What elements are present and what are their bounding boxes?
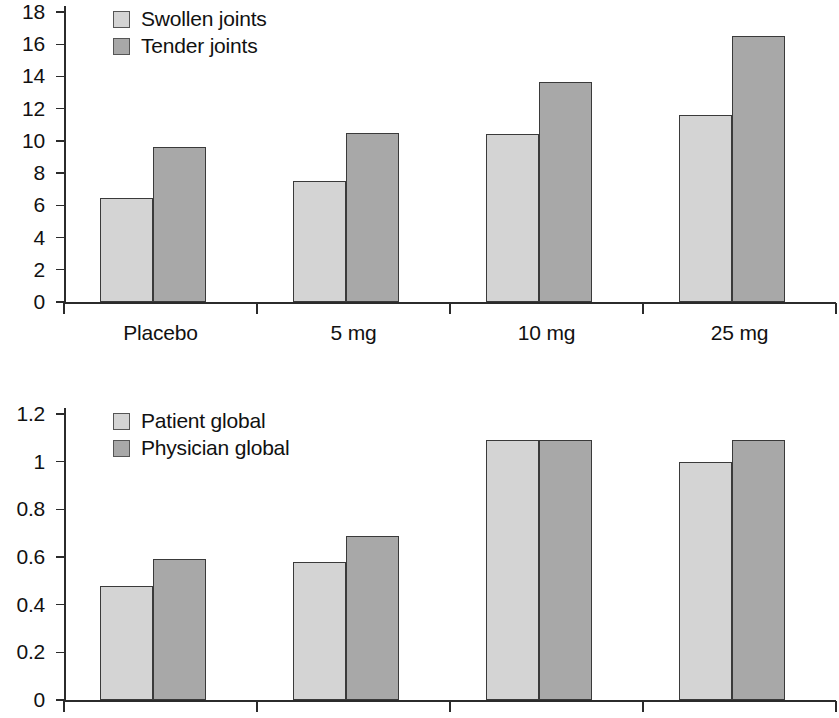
legend-item: Patient global xyxy=(113,408,290,434)
x-axis-tick xyxy=(256,303,257,314)
x-axis-tick xyxy=(63,701,64,712)
x-axis-tick xyxy=(835,701,836,712)
y-axis-tick xyxy=(56,237,65,238)
x-axis-tick xyxy=(835,303,836,314)
x-axis-tick xyxy=(449,303,450,314)
bar xyxy=(732,36,785,302)
y-axis-tick-label: 8 xyxy=(0,162,45,183)
y-axis-tick-label: 0.8 xyxy=(0,498,45,519)
y-axis-tick xyxy=(56,140,65,141)
y-axis-tick-label: 10 xyxy=(0,130,45,151)
bar xyxy=(153,147,206,302)
y-axis-tick xyxy=(56,604,65,605)
x-axis-tick-label: 25 mg xyxy=(643,322,836,343)
y-axis-tick xyxy=(56,205,65,206)
bar xyxy=(100,198,153,302)
y-axis-tick xyxy=(56,461,65,462)
y-axis-line xyxy=(64,6,66,302)
y-axis-tick xyxy=(56,509,65,510)
bar xyxy=(732,440,785,700)
y-axis-tick-label: 6 xyxy=(0,194,45,215)
x-axis-tick-label: 10 mg xyxy=(450,322,643,343)
y-axis-tick-label: 4 xyxy=(0,227,45,248)
y-axis-tick-label: 0 xyxy=(0,689,45,710)
legend-label: Tender joints xyxy=(141,35,257,57)
x-axis-tick xyxy=(256,701,257,712)
x-axis-tick-label: Placebo xyxy=(64,322,257,343)
y-axis-tick-label: 0.6 xyxy=(0,546,45,567)
y-axis-tick-label: 0.2 xyxy=(0,641,45,662)
y-axis-tick-label: 16 xyxy=(0,33,45,54)
y-axis-tick-label: 0.4 xyxy=(0,594,45,615)
y-axis-tick xyxy=(56,652,65,653)
y-axis-tick-label: 0 xyxy=(0,291,45,312)
y-axis-tick xyxy=(56,44,65,45)
x-axis-tick xyxy=(642,303,643,314)
y-axis-tick xyxy=(56,76,65,77)
legend-swatch-icon xyxy=(113,413,130,430)
legend-swatch-icon xyxy=(113,11,130,28)
y-axis-tick-label: 1.2 xyxy=(0,403,45,424)
bar xyxy=(153,559,206,700)
legend-label: Swollen joints xyxy=(141,8,267,30)
legend-item: Swollen joints xyxy=(113,6,267,32)
legend-swatch-icon xyxy=(113,38,130,55)
y-axis-tick xyxy=(56,172,65,173)
legend-label: Patient global xyxy=(141,410,265,432)
legend-label: Physician global xyxy=(141,437,290,459)
chart-panel-joint-counts: 024681012141618Placebo5 mg10 mg25 mg Swo… xyxy=(0,0,839,345)
y-axis-tick-label: 18 xyxy=(0,1,45,22)
legend-item: Tender joints xyxy=(113,33,267,59)
y-axis-tick xyxy=(56,108,65,109)
y-axis-tick xyxy=(56,269,65,270)
bar xyxy=(539,82,592,302)
x-axis-tick xyxy=(63,303,64,314)
x-axis-tick xyxy=(449,701,450,712)
chart-panel-global-assessments: 00.20.40.60.811.2 Patient globalPhysicia… xyxy=(0,400,839,718)
x-axis-tick xyxy=(642,701,643,712)
bar xyxy=(679,462,732,700)
y-axis-tick-label: 1 xyxy=(0,451,45,472)
bar xyxy=(539,440,592,700)
bar xyxy=(293,181,346,302)
x-axis-tick-label: 5 mg xyxy=(257,322,450,343)
y-axis-tick xyxy=(56,556,65,557)
y-axis-tick-label: 12 xyxy=(0,98,45,119)
legend-joint-counts: Swollen jointsTender joints xyxy=(113,6,267,60)
y-axis-tick-label: 2 xyxy=(0,259,45,280)
bar xyxy=(346,133,399,302)
y-axis-tick-label: 14 xyxy=(0,65,45,86)
legend-item: Physician global xyxy=(113,435,290,461)
bar xyxy=(100,586,153,700)
legend-swatch-icon xyxy=(113,440,130,457)
y-axis-line xyxy=(64,408,66,700)
y-axis-tick xyxy=(56,413,65,414)
bar xyxy=(346,536,399,700)
bar xyxy=(679,115,732,302)
figure: 024681012141618Placebo5 mg10 mg25 mg Swo… xyxy=(0,0,839,718)
bar xyxy=(293,562,346,700)
bar xyxy=(486,440,539,700)
legend-global-assessments: Patient globalPhysician global xyxy=(113,408,290,462)
y-axis-tick xyxy=(56,11,65,12)
bar xyxy=(486,134,539,302)
